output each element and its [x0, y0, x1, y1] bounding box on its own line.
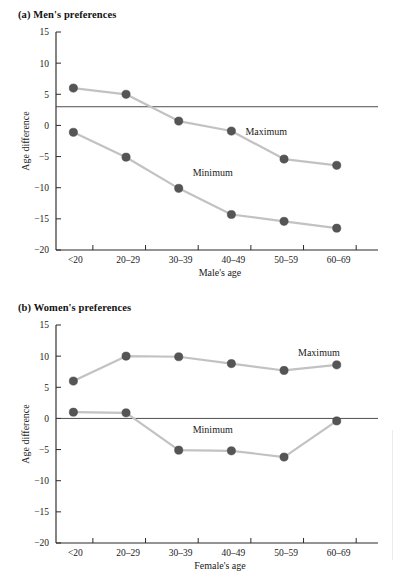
data-point-marker: [280, 217, 288, 225]
x-axis-title: Male's age: [199, 267, 242, 278]
panel-b-plot: 151050−5−10−15−20Age difference<2020–293…: [0, 293, 402, 586]
data-point-marker: [333, 361, 341, 369]
x-tick-label: 50–59: [274, 255, 298, 265]
y-tick-label: −15: [34, 507, 49, 517]
data-point-marker: [333, 161, 341, 169]
x-tick-label: 30–39: [169, 255, 193, 265]
series-annotation-minimum: Minimum: [193, 167, 233, 178]
chart-panel-women: (b) Women's preferences 151050−5−10−15−2…: [0, 293, 402, 586]
data-point-marker: [280, 366, 288, 374]
data-point-marker: [280, 453, 288, 461]
data-point-marker: [333, 224, 341, 232]
series-line-minimum: [73, 132, 336, 228]
y-tick-label: 0: [44, 121, 49, 131]
x-tick-label: 20–29: [116, 548, 140, 558]
data-point-marker: [175, 446, 183, 454]
series-line-minimum: [73, 412, 336, 457]
scan-artifact: [392, 430, 393, 560]
x-tick-label: 30–39: [169, 548, 193, 558]
x-tick-label: 40–49: [222, 255, 246, 265]
y-tick-label: 15: [40, 320, 50, 330]
y-tick-label: 10: [40, 352, 50, 362]
x-axis-title: Female's age: [194, 560, 246, 571]
data-point-marker: [175, 184, 183, 192]
y-tick-label: −10: [34, 183, 49, 193]
y-tick-label: −20: [34, 245, 49, 255]
series-annotation-minimum: Minimum: [193, 424, 233, 435]
data-point-marker: [122, 409, 130, 417]
series-annotation-maximum: Maximum: [245, 126, 287, 137]
x-tick-label: <20: [68, 255, 83, 265]
data-point-marker: [69, 128, 77, 136]
chart-panel-men: (a) Men's preferences 151050−5−10−15−20A…: [0, 0, 402, 293]
y-tick-label: 0: [44, 414, 49, 424]
series-line-maximum: [73, 356, 336, 381]
x-tick-label: 50–59: [274, 548, 298, 558]
y-tick-label: 5: [44, 90, 49, 100]
chart-b-svg: 151050−5−10−15−20Age difference<2020–293…: [0, 293, 402, 586]
data-point-marker: [227, 447, 235, 455]
y-tick-label: −20: [34, 538, 49, 548]
data-point-marker: [122, 153, 130, 161]
data-point-marker: [175, 353, 183, 361]
y-tick-label: 10: [40, 59, 50, 69]
data-point-marker: [280, 155, 288, 163]
data-point-marker: [122, 352, 130, 360]
data-point-marker: [175, 117, 183, 125]
y-axis-title: Age difference: [20, 111, 31, 171]
data-point-marker: [227, 360, 235, 368]
series-annotation-maximum: Maximum: [298, 347, 340, 358]
x-tick-label: 40–49: [222, 548, 246, 558]
data-point-marker: [69, 84, 77, 92]
data-point-marker: [69, 377, 77, 385]
y-tick-label: −10: [34, 476, 49, 486]
y-tick-label: 15: [40, 27, 50, 37]
y-tick-label: −5: [39, 445, 49, 455]
y-tick-label: 5: [44, 383, 49, 393]
data-point-marker: [227, 127, 235, 135]
chart-a-svg: 151050−5−10−15−20Age difference<2020–293…: [0, 0, 402, 293]
data-point-marker: [227, 210, 235, 218]
panel-a-plot: 151050−5−10−15−20Age difference<2020–293…: [0, 0, 402, 293]
x-tick-label: 60–69: [327, 548, 351, 558]
data-point-marker: [122, 90, 130, 98]
data-point-marker: [333, 417, 341, 425]
x-tick-label: 20–29: [116, 255, 140, 265]
x-tick-label: <20: [68, 548, 83, 558]
x-tick-label: 60–69: [327, 255, 351, 265]
series-line-maximum: [73, 88, 336, 165]
y-tick-label: −15: [34, 214, 49, 224]
y-tick-label: −5: [39, 152, 49, 162]
y-axis-title: Age difference: [20, 404, 31, 464]
data-point-marker: [69, 408, 77, 416]
